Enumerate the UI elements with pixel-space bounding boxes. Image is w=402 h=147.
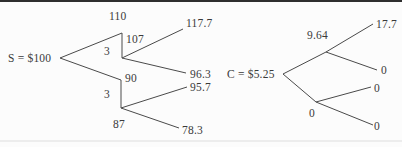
stock-terminal-down-down-label: 78.3 — [182, 124, 203, 136]
stock-terminal-up-up-label: 117.7 — [186, 17, 212, 29]
call-down-node-label: 0 — [309, 107, 315, 119]
call-tree-edges — [283, 24, 377, 125]
stock-root-label: S = $100 — [8, 52, 51, 64]
stock-terminal-up-down-label: 96.3 — [190, 68, 211, 80]
stock-up-ex-dividend-node-label: 107 — [126, 33, 144, 45]
call-terminal-down-up-label: 0 — [374, 82, 380, 94]
call-terminal-down-down-label: 0 — [374, 120, 380, 132]
stock-terminal-down-up-label: 95.7 — [190, 81, 211, 93]
stock-down-dividend-label: 3 — [104, 88, 110, 100]
binomial-tree-figure: S = $100 110 107 3 90 3 87 117.7 96.3 95… — [0, 0, 402, 147]
stock-down-node-label: 90 — [125, 72, 137, 84]
stock-down-ex-dividend-node-label: 87 — [113, 118, 125, 130]
call-terminal-up-down-label: 0 — [381, 64, 387, 76]
stock-tree-edges — [60, 29, 187, 128]
stock-up-dividend-label: 3 — [104, 45, 110, 57]
call-up-node-label: 9.64 — [307, 29, 328, 41]
stock-up-node-label: 110 — [109, 10, 126, 22]
call-terminal-up-up-label: 17.7 — [376, 18, 397, 30]
call-root-label: C = $5.25 — [227, 68, 275, 80]
